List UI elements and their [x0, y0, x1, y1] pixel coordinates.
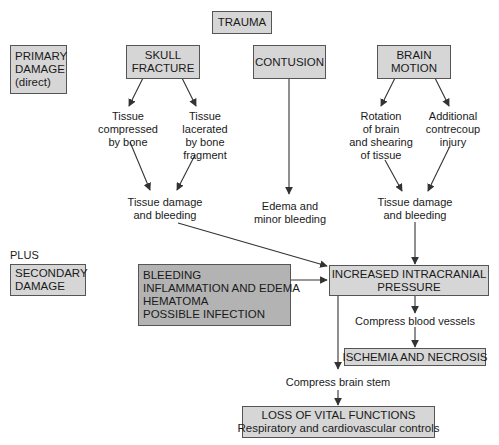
- secondary-cause-line: POSSIBLE INFECTION: [143, 308, 265, 321]
- tissue-damage-left-text: Tissue damage and bleeding: [120, 196, 210, 222]
- text-line: and bleeding: [120, 209, 210, 222]
- text-line: Tissue: [95, 110, 161, 123]
- ischemia-box: ISCHEMIA AND NECROSIS: [344, 348, 486, 366]
- text-line: Tissue: [172, 110, 238, 123]
- tissue-compressed-text: Tissue compressed by bone: [95, 110, 161, 149]
- text-line: minor bleeding: [245, 213, 335, 226]
- contusion-label: CONTUSION: [255, 56, 324, 69]
- text-line: Tissue damage: [120, 196, 210, 209]
- secondary-cause-line: BLEEDING: [143, 269, 201, 282]
- primary-damage-line: DAMAGE: [15, 63, 65, 76]
- trauma-label: TRAUMA: [218, 16, 267, 29]
- text-line: injury: [420, 136, 486, 149]
- text-line: by bone: [172, 136, 238, 149]
- skull-fracture-line: SKULL: [145, 49, 181, 62]
- text-line: Compress blood vessels: [355, 315, 475, 328]
- tissue-lacerated-text: Tissue lacerated by bone fragment: [172, 110, 238, 162]
- compress-stem-text: Compress brain stem: [283, 376, 393, 389]
- skull-fracture-box: SKULL FRACTURE: [126, 45, 200, 79]
- loss-vital-line: LOSS OF VITAL FUNCTIONS: [262, 409, 416, 422]
- tissue-damage-right-text: Tissue damage and bleeding: [370, 196, 460, 222]
- ischemia-label: ISCHEMIA AND NECROSIS: [342, 351, 487, 364]
- rotation-text: Rotation of brain and shearing of tissue: [345, 110, 417, 162]
- text-line: Tissue damage: [370, 196, 460, 209]
- text-line: and bleeding: [370, 209, 460, 222]
- skull-fracture-line: FRACTURE: [132, 62, 195, 75]
- plus-text: PLUS: [10, 249, 39, 262]
- secondary-cause-line: INFLAMMATION AND EDEMA: [143, 282, 300, 295]
- text-line: of brain: [345, 123, 417, 136]
- compress-vessels-text: Compress blood vessels: [355, 315, 475, 328]
- icp-line: INCREASED INTRACRANIAL: [332, 268, 487, 281]
- text-line: Rotation: [345, 110, 417, 123]
- primary-damage-line: PRIMARY: [15, 50, 67, 63]
- contrecoup-text: Additional contrecoup injury: [420, 110, 486, 149]
- text-line: of tissue: [345, 149, 417, 162]
- secondary-damage-line: SECONDARY: [15, 267, 88, 280]
- text-line: lacerated: [172, 123, 238, 136]
- secondary-causes-box: BLEEDING INFLAMMATION AND EDEMA HEMATOMA…: [138, 264, 291, 326]
- loss-vital-line: Respiratory and cardiovascular controls: [238, 422, 440, 435]
- secondary-cause-line: HEMATOMA: [143, 295, 208, 308]
- brain-motion-box: BRAIN MOTION: [377, 45, 451, 79]
- primary-damage-box: PRIMARY DAMAGE (direct): [10, 45, 67, 94]
- secondary-damage-box: SECONDARY DAMAGE: [10, 264, 86, 296]
- text-line: and shearing: [345, 136, 417, 149]
- text-line: Edema and: [245, 200, 335, 213]
- primary-damage-line: (direct): [15, 76, 51, 89]
- brain-motion-line: BRAIN: [396, 49, 431, 62]
- secondary-damage-line: DAMAGE: [15, 280, 65, 293]
- increased-icp-box: INCREASED INTRACRANIAL PRESSURE: [329, 265, 489, 296]
- text-line: compressed: [95, 123, 161, 136]
- edema-minor-text: Edema and minor bleeding: [245, 200, 335, 226]
- icp-line: PRESSURE: [377, 281, 440, 294]
- text-line: Compress brain stem: [283, 376, 393, 389]
- text-line: by bone: [95, 136, 161, 149]
- text-line: PLUS: [10, 249, 39, 262]
- text-line: contrecoup: [420, 123, 486, 136]
- loss-vital-box: LOSS OF VITAL FUNCTIONS Respiratory and …: [242, 406, 435, 438]
- brain-motion-line: MOTION: [391, 62, 437, 75]
- text-line: Additional: [420, 110, 486, 123]
- trauma-box: TRAUMA: [212, 11, 272, 34]
- text-line: fragment: [172, 149, 238, 162]
- contusion-box: CONTUSION: [253, 45, 326, 79]
